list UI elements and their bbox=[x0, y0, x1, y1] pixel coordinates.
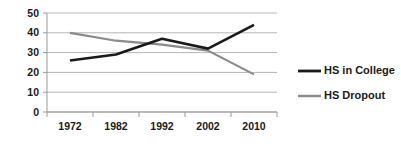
chart-container: 01020304050 19721982199220022010 HS in C… bbox=[0, 0, 401, 162]
y-tick-label: 10 bbox=[27, 86, 39, 98]
x-tick-label: 2010 bbox=[242, 120, 266, 132]
line-chart: 01020304050 19721982199220022010 HS in C… bbox=[0, 0, 401, 162]
legend-label-hs-in-college: HS in College bbox=[324, 64, 395, 76]
y-tick-label: 50 bbox=[27, 7, 39, 19]
y-tick-label: 30 bbox=[27, 46, 39, 58]
y-tick-label: 40 bbox=[27, 26, 39, 38]
x-tick-label: 2002 bbox=[196, 120, 220, 132]
x-tick-label: 1972 bbox=[58, 120, 82, 132]
legend-label-hs-dropout: HS Dropout bbox=[324, 89, 385, 101]
chart-background bbox=[0, 0, 401, 162]
x-tick-label: 1992 bbox=[150, 120, 174, 132]
y-tick-label: 0 bbox=[33, 106, 39, 118]
y-tick-label: 20 bbox=[27, 66, 39, 78]
x-tick-label: 1982 bbox=[104, 120, 128, 132]
